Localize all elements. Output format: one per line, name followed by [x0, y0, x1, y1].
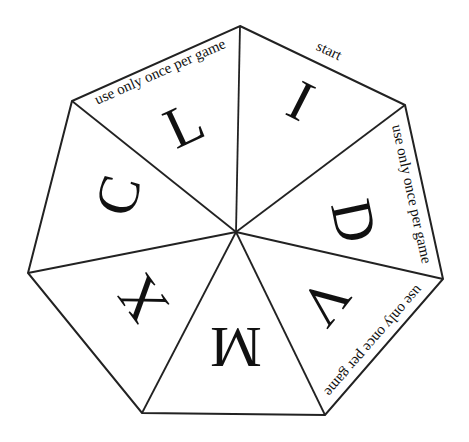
- spinner-board: I D V M X C L start use only once per ga…: [0, 0, 469, 442]
- edge-label-start: start: [314, 38, 345, 64]
- sector-letter-M: M: [210, 315, 262, 380]
- sector-M: M: [210, 315, 262, 380]
